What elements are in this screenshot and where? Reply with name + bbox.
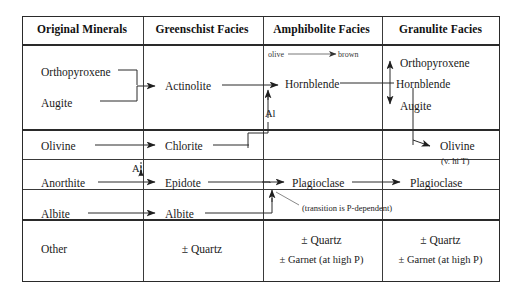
column-header-greenschist-facies: Greenschist Facies	[142, 16, 262, 43]
mineral-orthopyroxene-original: Orthopyroxene	[41, 66, 111, 78]
column-header-granulite-facies: Granulite Facies	[381, 16, 500, 43]
mineral-plagioclase-amphibolite: Plagioclase	[292, 177, 344, 189]
mineral-augite-granulite: Augite	[400, 100, 431, 112]
mineral-olivine-granulite: Olivine	[440, 140, 475, 152]
mineral-albite-original: Albite	[41, 208, 70, 220]
row-divider-1	[23, 129, 499, 131]
mineral-other-original: Other	[41, 243, 67, 255]
mineral-epidote-greenschist: Epidote	[165, 177, 201, 189]
annotation-al-hornblende: Al	[265, 108, 276, 119]
annotation-brown: brown	[338, 50, 358, 59]
annotation-transition-p-dependent: (transition is P-dependent)	[302, 203, 394, 213]
annotation-olive: olive	[268, 50, 284, 59]
mineral-quartz-granulite: ± Quartz	[381, 234, 500, 246]
figure-canvas: Original Minerals Greenschist Facies Amp…	[0, 0, 522, 295]
column-header-original-minerals: Original Minerals	[22, 16, 142, 43]
mineral-augite-original: Augite	[41, 97, 72, 109]
mineral-quartz-amphibolite: ± Quartz	[262, 234, 381, 246]
mineral-albite-greenschist: Albite	[165, 208, 194, 220]
annotation-al-epidote: Al	[132, 163, 143, 174]
mineral-chlorite-greenschist: Chlorite	[165, 140, 203, 152]
mineral-garnet-amphibolite: ± Garnet (at high P)	[262, 254, 381, 265]
header-divider	[23, 44, 499, 46]
row-divider-4	[23, 219, 499, 221]
annotation-v-hi-t: (v. hi T)	[441, 156, 469, 166]
mineral-garnet-granulite: ± Garnet (at high P)	[381, 254, 500, 265]
column-header-amphibolite-facies: Amphibolite Facies	[262, 16, 381, 43]
mineral-plagioclase-granulite: Plagioclase	[410, 177, 462, 189]
row-divider-3	[23, 189, 499, 190]
mineral-orthopyroxene-granulite: Orthopyroxene	[400, 57, 470, 69]
mineral-hornblende-granulite: Hornblende	[396, 78, 450, 90]
mineral-quartz-greenschist: ± Quartz	[142, 243, 262, 255]
mineral-actinolite-greenschist: Actinolite	[165, 80, 211, 92]
mineral-olivine-original: Olivine	[41, 140, 76, 152]
column-divider-1	[143, 17, 144, 281]
row-divider-2	[23, 159, 499, 160]
mineral-anorthite-original: Anorthite	[41, 177, 85, 189]
mineral-hornblende-amphibolite: Hornblende	[285, 78, 339, 90]
